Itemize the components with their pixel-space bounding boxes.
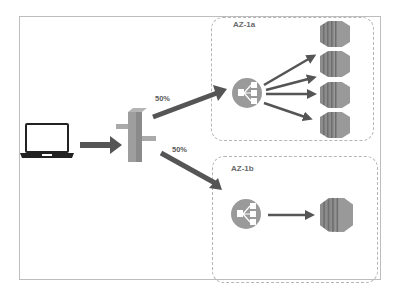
arrow-gateway-to-az-1b	[161, 153, 222, 190]
arrows-lb-to-instances-az-1a	[264, 57, 312, 118]
arrow-client-to-gateway	[80, 136, 122, 154]
router-gateway-icon	[116, 108, 156, 162]
ec2-instance-icons-az-1a	[320, 21, 350, 138]
ec2-instance-icon-az-1b	[320, 198, 353, 232]
arrow-gateway-to-az-1a	[153, 85, 227, 117]
load-balancer-icon-az-1a	[232, 78, 262, 108]
laptop-icon	[20, 124, 74, 158]
diagram-graphics	[0, 0, 399, 292]
load-balancer-icon-az-1b	[231, 199, 261, 229]
